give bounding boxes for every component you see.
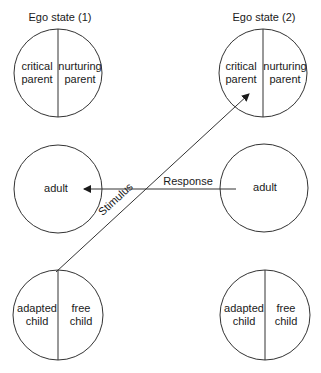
ego-state-diagram: Ego state (1) critical parent nurturing …: [0, 0, 321, 373]
ego-state-2-adult-circle: adult: [220, 144, 308, 232]
adult-label: adult: [253, 181, 277, 193]
free-child-label-line2: child: [275, 315, 298, 327]
adapted-child-label-line2: child: [233, 315, 256, 327]
free-child-label-line1: free: [72, 302, 91, 314]
response-label: Response: [163, 175, 213, 187]
response-arrow: Response: [84, 175, 236, 189]
nurturing-parent-label-line2: parent: [64, 73, 95, 85]
nurturing-parent-label-line1: nurturing: [263, 60, 306, 72]
ego-state-2-column: Ego state (2) critical parent nurturing …: [219, 11, 310, 360]
ego-state-1-child-circle: adapted child free child: [13, 270, 103, 360]
nurturing-parent-label-line2: parent: [269, 73, 300, 85]
free-child-label-line1: free: [277, 302, 296, 314]
adult-label: adult: [44, 182, 68, 194]
adapted-child-label-line1: adapted: [17, 302, 57, 314]
ego-state-2-child-circle: adapted child free child: [220, 270, 310, 360]
adapted-child-label-line1: adapted: [224, 302, 264, 314]
ego-state-1-title: Ego state (1): [29, 11, 92, 23]
adapted-child-label-line2: child: [26, 315, 49, 327]
critical-parent-label-line1: critical: [21, 60, 52, 72]
nurturing-parent-label-line1: nurturing: [58, 60, 101, 72]
ego-state-1-column: Ego state (1) critical parent nurturing …: [13, 11, 103, 360]
ego-state-2-parent-circle: critical parent nurturing parent: [219, 29, 307, 117]
free-child-label-line2: child: [70, 315, 93, 327]
ego-state-1-parent-circle: critical parent nurturing parent: [14, 29, 102, 117]
ego-state-2-title: Ego state (2): [233, 11, 296, 23]
critical-parent-label-line2: parent: [225, 73, 256, 85]
critical-parent-label-line2: parent: [21, 73, 52, 85]
critical-parent-label-line1: critical: [225, 60, 256, 72]
